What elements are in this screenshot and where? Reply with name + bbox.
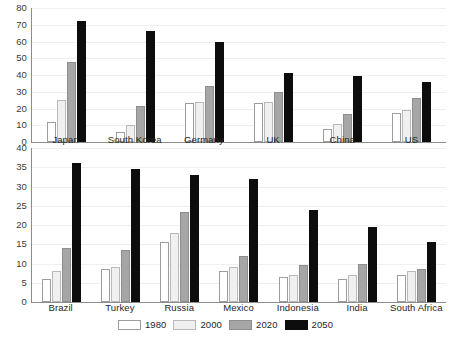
chart-panel-top: 01020304050607080 xyxy=(0,8,451,143)
plot-area-bottom xyxy=(31,148,446,303)
legend-swatch-icon xyxy=(118,320,141,330)
x-tick-label: Mexico xyxy=(209,303,268,313)
bar-2020 xyxy=(121,250,130,302)
x-axis-bottom: BrazilTurkeyRussiaMexicoIndonesiaIndiaSo… xyxy=(31,303,446,313)
bar-2050 xyxy=(284,73,293,143)
y-tick-label: 40 xyxy=(16,70,27,80)
two-panel-bar-chart-figure: 01020304050607080 JapanSouth KoreaGerman… xyxy=(0,0,451,343)
bar-2050 xyxy=(190,175,199,302)
bar-groups-bottom xyxy=(32,148,446,302)
bar-group xyxy=(269,148,328,302)
bar-2000 xyxy=(52,271,61,302)
x-tick-label: Germany xyxy=(169,135,238,145)
bar-2020 xyxy=(417,269,426,302)
bar-group xyxy=(328,148,387,302)
legend-label: 2000 xyxy=(200,320,222,330)
bar-2000 xyxy=(170,233,179,302)
bar-1980 xyxy=(397,275,406,302)
bar-2020 xyxy=(239,256,248,302)
legend-swatch-icon xyxy=(285,320,308,330)
y-tick-label: 10 xyxy=(16,259,27,269)
y-tick-label: 10 xyxy=(16,121,27,131)
y-tick-label: 20 xyxy=(16,104,27,114)
bar-2050 xyxy=(309,210,318,302)
bar-2050 xyxy=(353,76,362,142)
bar-2020 xyxy=(67,62,76,142)
y-tick-label: 50 xyxy=(16,54,27,64)
y-tick-label: 60 xyxy=(16,37,27,47)
bar-group xyxy=(308,8,377,142)
y-tick-label: 15 xyxy=(16,240,27,250)
y-tick-label: 25 xyxy=(16,201,27,211)
bar-2000 xyxy=(229,267,238,302)
chart-panel-bottom: 0510152025303540 xyxy=(0,148,451,303)
legend-label: 2020 xyxy=(256,320,278,330)
bar-group xyxy=(32,148,91,302)
plot-area-top xyxy=(31,8,446,143)
bar-2020 xyxy=(299,265,308,302)
bar-1980 xyxy=(101,269,110,302)
x-tick-label: India xyxy=(327,303,386,313)
y-tick-label: 40 xyxy=(16,143,27,153)
x-tick-label: US xyxy=(377,135,446,145)
bar-group xyxy=(209,148,268,302)
bar-1980 xyxy=(338,279,347,302)
bar-1980 xyxy=(160,242,169,302)
bar-2050 xyxy=(131,169,140,302)
legend-item: 2000 xyxy=(173,320,222,330)
x-tick-label: Russia xyxy=(150,303,209,313)
x-tick-label: Turkey xyxy=(90,303,149,313)
bar-group xyxy=(150,148,209,302)
y-tick-label: 30 xyxy=(16,182,27,192)
x-tick-label: South Africa xyxy=(387,303,446,313)
x-tick-label: China xyxy=(308,135,377,145)
legend-label: 2050 xyxy=(312,320,334,330)
x-tick-label: Indonesia xyxy=(268,303,327,313)
bar-2050 xyxy=(146,31,155,142)
y-tick-label: 5 xyxy=(22,278,27,288)
x-tick-label: Brazil xyxy=(31,303,90,313)
bar-1980 xyxy=(42,279,51,302)
bar-group xyxy=(377,8,446,142)
bar-2000 xyxy=(111,267,120,302)
bar-group xyxy=(91,148,150,302)
bar-group xyxy=(32,8,101,142)
legend-item: 1980 xyxy=(118,320,167,330)
bar-2020 xyxy=(62,248,71,302)
bar-2000 xyxy=(289,275,298,302)
x-tick-label: UK xyxy=(239,135,308,145)
bar-2050 xyxy=(77,21,86,142)
bar-2020 xyxy=(358,264,367,303)
bar-2050 xyxy=(368,227,377,302)
legend-item: 2020 xyxy=(229,320,278,330)
x-axis-top: JapanSouth KoreaGermanyUKChinaUS xyxy=(31,135,446,145)
bar-group xyxy=(101,8,170,142)
legend-swatch-icon xyxy=(173,320,196,330)
bar-1980 xyxy=(219,271,228,302)
y-axis-top: 01020304050607080 xyxy=(0,8,31,143)
bar-group xyxy=(239,8,308,142)
y-tick-label: 30 xyxy=(16,87,27,97)
bar-2050 xyxy=(422,82,431,142)
legend-label: 1980 xyxy=(145,320,167,330)
y-tick-label: 0 xyxy=(22,297,27,307)
y-axis-bottom: 0510152025303540 xyxy=(0,148,31,303)
bar-group xyxy=(170,8,239,142)
y-tick-label: 20 xyxy=(16,220,27,230)
chart-legend: 1980200020202050 xyxy=(0,320,451,330)
y-tick-label: 35 xyxy=(16,163,27,173)
legend-item: 2050 xyxy=(285,320,334,330)
bar-2020 xyxy=(180,212,189,302)
bar-group xyxy=(387,148,446,302)
bar-2050 xyxy=(249,179,258,302)
bar-1980 xyxy=(279,277,288,302)
bar-2000 xyxy=(348,275,357,302)
y-tick-label: 80 xyxy=(16,3,27,13)
x-tick-label: Japan xyxy=(31,135,100,145)
legend-swatch-icon xyxy=(229,320,252,330)
bar-2050 xyxy=(72,163,81,302)
bar-2050 xyxy=(215,42,224,143)
bar-2000 xyxy=(407,271,416,302)
x-tick-label: South Korea xyxy=(100,135,169,145)
bar-2050 xyxy=(427,242,436,302)
